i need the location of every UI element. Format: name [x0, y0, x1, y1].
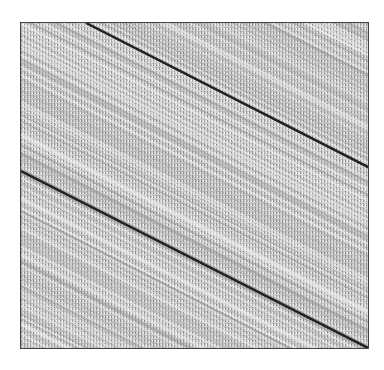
- pattern-frame: [20, 22, 369, 349]
- striated-pattern: [21, 23, 369, 349]
